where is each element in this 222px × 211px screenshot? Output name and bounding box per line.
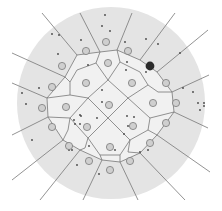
ring-site-marker [126, 157, 133, 164]
inner-site-marker [83, 123, 90, 130]
ring-site-marker [85, 157, 92, 164]
dot [197, 102, 199, 104]
voronoi-diagram [0, 0, 222, 211]
dot [124, 41, 126, 43]
dot [25, 103, 27, 105]
dot [80, 115, 82, 117]
dot [73, 119, 75, 121]
ring-site-marker [58, 62, 65, 69]
dot [203, 105, 205, 107]
dot [71, 149, 73, 151]
dot [192, 91, 194, 93]
ring-site-marker [65, 142, 72, 149]
dot [182, 87, 184, 89]
dot [38, 87, 40, 89]
dot [145, 71, 147, 73]
ring-site-marker [48, 123, 55, 130]
dot [31, 139, 33, 141]
dot [88, 145, 90, 147]
dot [114, 149, 116, 151]
highlighted-site-marker [146, 62, 155, 71]
ring-site-marker [82, 47, 89, 54]
dot [101, 101, 103, 103]
inner-site-marker [128, 79, 135, 86]
dot [133, 116, 135, 118]
dot [109, 30, 111, 32]
dot [101, 89, 103, 91]
dot [76, 164, 78, 166]
dot [139, 151, 141, 153]
dot [58, 34, 60, 36]
dot [51, 33, 53, 35]
dot [123, 133, 125, 135]
dot [125, 69, 127, 71]
dot [74, 123, 76, 125]
inner-site-marker [104, 59, 111, 66]
dot [199, 109, 201, 111]
dot [104, 14, 106, 16]
dot [126, 61, 128, 63]
inner-site-marker [62, 103, 69, 110]
ring-site-marker [38, 104, 45, 111]
dot [96, 117, 98, 119]
dot [203, 102, 205, 104]
ring-site-marker [102, 38, 109, 45]
dot [101, 25, 103, 27]
inner-site-marker [82, 79, 89, 86]
dot [127, 125, 129, 127]
dot [21, 92, 23, 94]
dot [80, 39, 82, 41]
dot [87, 64, 89, 66]
ring-site-marker [146, 139, 153, 146]
ring-site-marker [172, 99, 179, 106]
ring-site-marker [124, 47, 131, 54]
dot [179, 52, 181, 54]
inner-site-marker [105, 101, 112, 108]
dot [98, 173, 100, 175]
ring-site-marker [106, 166, 113, 173]
dot [147, 149, 149, 151]
ring-site-marker [48, 83, 55, 90]
dot [157, 43, 159, 45]
inner-site-marker [106, 143, 113, 150]
dot [126, 115, 128, 117]
inner-site-marker [129, 122, 136, 129]
diagram-canvas [0, 0, 222, 211]
dot [79, 123, 81, 125]
dot [57, 53, 59, 55]
ring-site-marker [162, 79, 169, 86]
inner-site-marker [149, 99, 156, 106]
dot [145, 38, 147, 40]
ring-site-marker [162, 119, 169, 126]
